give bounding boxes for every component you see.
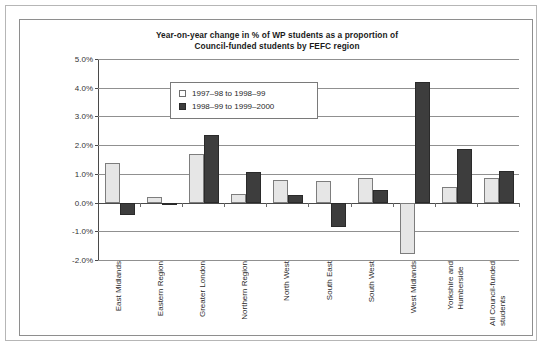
x-axis-label-line: Northern Region [240,261,250,320]
x-axis-label-line: South East [325,261,335,300]
chart-legend: 1997–98 to 1998–99 1998–99 to 1999–2000 [170,82,318,119]
bar-series-1 [442,187,457,203]
bar-group [477,59,519,260]
legend-label-series-2: 1998–99 to 1999–2000 [192,102,274,111]
bar-series-1 [400,203,415,255]
x-axis-label-text: East Midlands [114,261,124,311]
chart-outer-border: Year-on-year change in % of WP students … [5,5,537,341]
x-axis-label-line: East Midlands [114,261,124,311]
x-axis-label-text: South East [325,261,335,300]
legend-item-series-2: 1998–99 to 1999–2000 [177,100,311,113]
bar-series-1 [358,178,373,202]
x-axis-label: Northern Region [224,261,266,348]
bar-series-2 [288,195,303,202]
x-axis-label: Eastern Region [140,261,182,348]
x-axis-label-text: All Council-fundedstudents [488,261,508,326]
x-axis-label-text: Yorkshire andHumberside [446,261,466,310]
x-tick-mark [519,203,520,207]
legend-label-series-1: 1997–98 to 1998–99 [192,89,265,98]
x-axis-label-line: Eastern Region [156,261,166,316]
bar-series-1 [316,181,331,203]
bar-series-2 [120,203,135,216]
x-axis-label-line: Yorkshire and [446,261,456,310]
bar-series-1 [105,163,120,202]
bar-series-2 [499,171,514,203]
x-axis-label-text: Greater London [198,261,208,317]
y-axis-tick-label: 0.0% [75,198,93,207]
bar-series-2 [457,149,472,202]
legend-swatch-dark [179,103,186,110]
bar-series-1 [189,154,204,203]
x-axis-label: North West [266,261,308,348]
bar-series-1 [231,194,246,203]
x-axis-label-line: Greater London [198,261,208,317]
bar-group [435,59,477,260]
x-axis-label-text: Northern Region [240,261,250,320]
x-axis-label: South East [309,261,351,348]
x-axis-label-text: West Midlands [409,261,419,313]
x-axis-label-line: West Midlands [409,261,419,313]
bar-series-2 [204,135,219,202]
x-axis-label: Yorkshire andHumberside [435,261,477,348]
x-axis-label: West Midlands [393,261,435,348]
chart-frame: Year-on-year change in % of WP students … [19,19,533,336]
x-axis-label: All Council-fundedstudents [477,261,519,348]
bar-group [98,59,140,260]
bar-series-1 [273,180,288,203]
bar-series-2 [415,82,430,203]
x-axis-label-text: North West [282,261,292,301]
bar-series-1 [484,178,499,202]
x-axis-label-line: All Council-funded [488,261,498,326]
legend-item-series-1: 1997–98 to 1998–99 [177,87,311,100]
x-axis-label-line: North West [282,261,292,301]
x-axis-label-line: South West [367,261,377,302]
legend-swatch-light [179,90,186,97]
y-axis-tick-label: 5.0% [75,55,93,64]
chart-title: Year-on-year change in % of WP students … [20,30,534,52]
y-axis-tick-label: -1.0% [72,227,93,236]
bar-series-2 [373,190,388,203]
chart-title-line-2: Council-funded students by FEFC region [20,41,534,52]
y-axis-tick-label: -2.0% [72,256,93,265]
chart-title-line-1: Year-on-year change in % of WP students … [20,30,534,41]
x-axis-label: South West [351,261,393,348]
x-axis-label-text: Eastern Region [156,261,166,316]
y-axis-tick-label: 4.0% [75,83,93,92]
bar-series-2 [331,203,346,227]
x-axis-label-line: Humberside [456,261,466,310]
x-axis-label: East Midlands [98,261,140,348]
x-axis-category-labels: East MidlandsEastern RegionGreater Londo… [98,261,519,348]
bar-series-2 [162,203,177,206]
bar-group [393,59,435,260]
y-axis-tick-label: 3.0% [75,112,93,121]
x-axis-label: Greater London [182,261,224,348]
x-axis-label-line: students [498,261,508,326]
bar-series-1 [147,197,162,203]
y-axis-tick-label: 1.0% [75,169,93,178]
bar-series-2 [246,172,261,202]
x-axis-label-text: South West [367,261,377,302]
bar-group [351,59,393,260]
y-axis-tick-label: 2.0% [75,141,93,150]
